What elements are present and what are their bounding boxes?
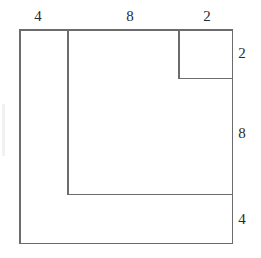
page-edge-artifact <box>2 104 5 156</box>
figure-canvas: 4 8 2 2 8 4 <box>0 0 261 258</box>
dimension-label-right-top: 2 <box>238 46 246 61</box>
outer-left-edge <box>19 29 21 243</box>
dimension-label-right-middle: 8 <box>238 126 246 141</box>
dimension-label-top-middle: 8 <box>126 9 134 24</box>
interior-horizontal-divider <box>67 194 233 196</box>
corner-square-left-edge <box>178 29 180 79</box>
outer-top-edge <box>19 29 233 31</box>
outer-bottom-edge <box>19 243 233 245</box>
dimension-label-top-right: 2 <box>203 9 211 24</box>
dimension-label-top-left: 4 <box>34 9 42 24</box>
corner-square-bottom-edge <box>178 78 233 80</box>
interior-vertical-divider <box>67 29 69 195</box>
dimension-label-right-bottom: 4 <box>238 212 246 227</box>
outer-right-edge <box>232 29 234 243</box>
